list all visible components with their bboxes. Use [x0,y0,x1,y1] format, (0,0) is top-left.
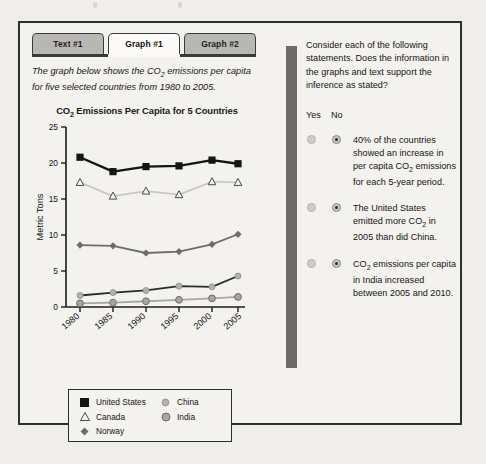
legend-item-united-states: United States [78,395,146,410]
svg-text:10: 10 [49,230,59,240]
series-canada [76,178,242,199]
y-axis-title: Metric Tons [35,193,45,240]
filled-square-icon [78,398,91,407]
radio-no-1[interactable] [332,135,341,144]
question-panel: Consider each of the following statement… [306,23,464,423]
statement-row-2: The United States emitted more CO2 in 20… [306,202,452,244]
radio-yes-3[interactable] [307,259,316,268]
legend-label-india: India [177,412,195,422]
svg-text:0: 0 [53,302,58,312]
legend-item-china: China [159,395,199,410]
tab-graph-1-label: Graph #1 [125,39,163,49]
open-triangle-icon [78,412,91,421]
svg-text:15: 15 [49,194,59,204]
legend-label-norway: Norway [96,426,124,436]
intro-line-1b: emissions per [165,66,224,76]
no-column-header: No [331,110,343,120]
answer-column-headers: Yes No [306,110,452,124]
filled-circle-light-icon [159,398,172,407]
legend-item-norway: Norway [78,424,146,439]
chart-title-a: CO [56,105,70,116]
chart-svg: 25 20 15 10 5 0 Metric Tons [32,121,264,336]
tab-graph-2[interactable]: Graph #2 [184,33,256,54]
series-norway [76,231,241,257]
series-united-states [76,154,241,176]
legend-column-1: United States Canada Norway [78,395,146,439]
radio-yes-1[interactable] [307,135,316,144]
scan-artifact-2 [178,2,182,8]
radio-no-2[interactable] [332,203,341,212]
svg-text:5: 5 [53,266,58,276]
series-india [77,294,242,307]
chart-title: CO2 Emissions Per Capita for 5 Countries [32,105,262,118]
question-prompt: Consider each of the following statement… [306,39,452,93]
statement-text-3: CO2 emissions per capita in India increa… [353,258,457,300]
filled-diamond-icon [78,427,91,436]
tab-text-1-label: Text #1 [53,39,82,49]
tab-graph-1[interactable]: Graph #1 [108,33,180,54]
statement-2-part-a: The United States emitted more CO [353,203,426,226]
statement-text-2: The United States emitted more CO2 in 20… [353,202,457,244]
series-china [77,273,241,298]
x-tick-labels: 1980 1985 1990 1995 2000 2005 [60,311,244,332]
radio-no-3[interactable] [332,259,341,268]
chart-title-b: Emissions Per Capita for 5 Countries [74,105,238,116]
line-chart: 25 20 15 10 5 0 Metric Tons [32,121,264,336]
svg-text:20: 20 [49,158,59,168]
statement-list: 40% of the countries showed an increase … [306,134,452,300]
legend-label-canada: Canada [96,412,125,422]
statement-text-1: 40% of the countries showed an increase … [353,134,457,190]
tab-active-notch [108,54,180,57]
svg-text:2000: 2000 [192,311,214,332]
legend-column-2: China India [159,395,199,424]
legend-label-china: China [177,397,199,407]
statement-3-part-a: CO [353,259,367,269]
radio-yes-2[interactable] [307,203,316,212]
svg-text:2005: 2005 [222,311,244,332]
series-layer [76,154,242,307]
intro-line-1a: The graph below shows the CO [32,66,161,76]
tab-graph-2-label: Graph #2 [201,39,239,49]
svg-text:1995: 1995 [159,311,181,332]
svg-text:1985: 1985 [93,311,115,332]
legend-item-india: India [159,410,199,425]
svg-text:1990: 1990 [126,311,148,332]
y-tick-labels: 25 20 15 10 5 0 [49,122,59,312]
legend-item-canada: Canada [78,410,146,425]
yes-column-header: Yes [306,110,321,120]
stimulus-panel: Text #1 Graph #1 Graph #2 The graph belo… [20,23,280,423]
chart-legend: United States Canada Norway [68,389,232,442]
svg-text:25: 25 [49,122,59,132]
tab-text-1[interactable]: Text #1 [32,33,104,54]
svg-text:1980: 1980 [60,311,82,332]
question-frame: Text #1 Graph #1 Graph #2 The graph belo… [18,21,462,425]
scan-artifact-1 [93,2,97,8]
statement-row-3: CO2 emissions per capita in India increa… [306,258,452,300]
filled-circle-gray-icon [159,412,172,422]
tab-bar: Text #1 Graph #1 Graph #2 [32,33,270,56]
legend-label-united-states: United States [96,397,146,407]
panel-divider [286,46,297,368]
statement-row-1: 40% of the countries showed an increase … [306,134,452,190]
stimulus-intro-text: The graph below shows the CO2 emissions … [32,65,260,94]
